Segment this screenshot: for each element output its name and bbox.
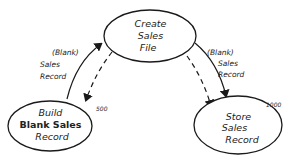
node-create-line-1: Create (135, 18, 167, 29)
node-store-line-1: Store (226, 111, 251, 122)
node-build-count: 500 (96, 105, 108, 112)
edge-label-left-line-2: Sales (40, 60, 60, 69)
node-build-line-2: Blank Sales (20, 119, 82, 130)
edge-label-left-line-3: Record (40, 72, 67, 81)
node-build-line-3: Record (35, 131, 69, 142)
edge-label-right-line-2: Sales (218, 59, 238, 68)
node-create-sales-file: Create Sales File (104, 10, 196, 62)
edge-create-to-store-dashed (187, 56, 211, 106)
state-diagram: Create Sales File Build Blank Sales Reco… (0, 0, 291, 165)
node-create-line-2: Sales (138, 30, 163, 41)
node-build-line-1: Build (39, 107, 64, 118)
node-store-sales-record: Store Sales Record 1000 (194, 96, 282, 154)
edge-label-right-line-1: (Blank) (207, 48, 234, 57)
node-store-line-2: Sales (222, 122, 247, 133)
edge-label-left-line-1: (Blank) (52, 48, 79, 57)
node-store-line-3: Record (225, 134, 259, 145)
node-store-count: 1000 (266, 101, 281, 108)
edge-create-to-build-dashed (86, 52, 112, 100)
node-create-line-3: File (140, 42, 157, 53)
edge-label-right-line-3: Record (218, 70, 245, 79)
node-build-blank-sales-record: Build Blank Sales Record 500 (8, 101, 108, 151)
